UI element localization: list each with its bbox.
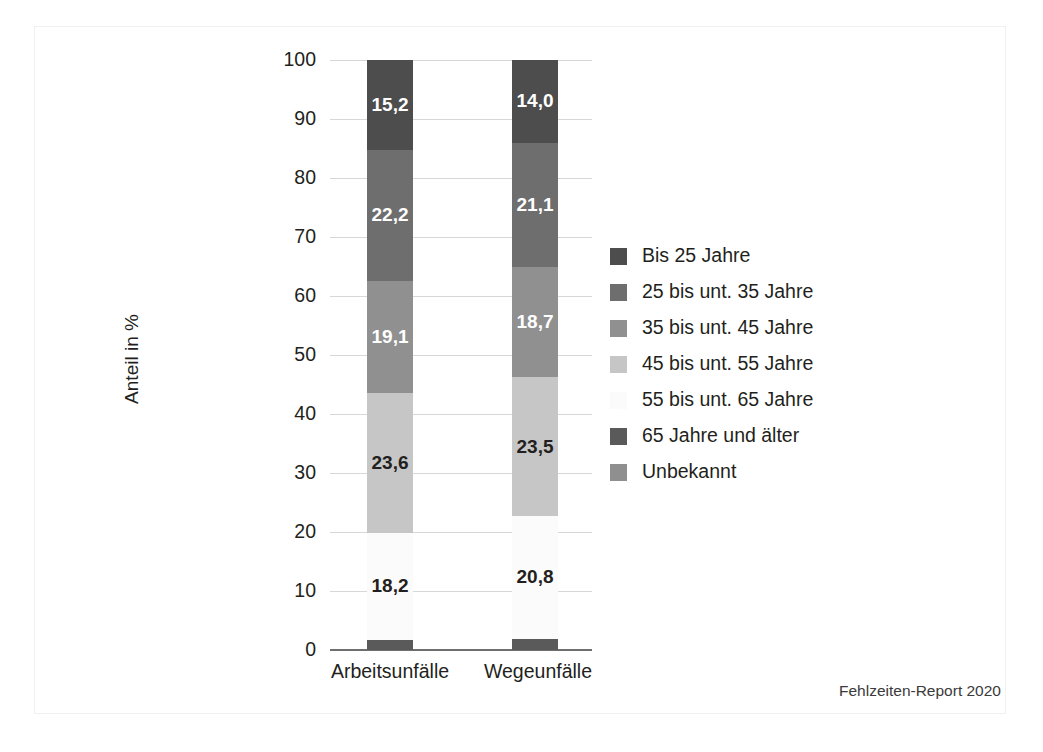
bar-segment-value: 23,6 (367, 453, 413, 472)
legend-item[interactable]: 55 bis unt. 65 Jahre (610, 382, 813, 418)
y-tick-label: 100 (274, 50, 316, 70)
bar-segment-value: 18,2 (367, 576, 413, 595)
legend-swatch-icon (610, 284, 627, 301)
bar-segment[interactable] (367, 640, 413, 650)
legend-item-label: Bis 25 Jahre (642, 246, 750, 266)
legend-item-label: 35 bis unt. 45 Jahre (642, 318, 813, 338)
source-note: Fehlzeiten-Report 2020 (839, 682, 1001, 700)
legend-item[interactable]: 65 Jahre und älter (610, 418, 813, 454)
y-tick-label: 80 (274, 168, 316, 188)
chart-figure: 010203040506070809010015,222,219,123,618… (0, 0, 1043, 752)
legend-swatch-icon (610, 248, 627, 265)
legend-item[interactable]: Unbekannt (610, 454, 813, 490)
y-tick-label: 50 (274, 345, 316, 365)
bar-segment-value: 19,1 (367, 327, 413, 346)
legend-item[interactable]: Bis 25 Jahre (610, 238, 813, 274)
bar-segment-value: 15,2 (367, 95, 413, 114)
legend: Bis 25 Jahre25 bis unt. 35 Jahre35 bis u… (610, 238, 813, 490)
legend-item-label: 25 bis unt. 35 Jahre (642, 282, 813, 302)
y-tick-label: 60 (274, 286, 316, 306)
legend-item-label: 65 Jahre und älter (642, 426, 799, 446)
y-axis-title: Anteil in % (121, 209, 143, 509)
legend-item-label: 45 bis unt. 55 Jahre (642, 354, 813, 374)
legend-item[interactable]: 25 bis unt. 35 Jahre (610, 274, 813, 310)
bar-segment-value: 18,7 (512, 312, 558, 331)
bar-segment[interactable] (512, 639, 558, 650)
bar-arbeitsunfaelle[interactable]: 15,222,219,123,618,2 (367, 60, 413, 650)
y-tick-label: 90 (274, 109, 316, 129)
y-tick-label: 0 (274, 640, 316, 660)
bar-segment-value: 23,5 (512, 437, 558, 456)
bar-segment-value: 20,8 (512, 567, 558, 586)
y-tick-label: 30 (274, 463, 316, 483)
y-tick-label: 70 (274, 227, 316, 247)
x-tick-wegeunfaelle: Wegeunfälle (448, 660, 628, 683)
bar-segment-value: 14,0 (512, 91, 558, 110)
legend-swatch-icon (610, 392, 627, 409)
plot-area: 010203040506070809010015,222,219,123,618… (0, 0, 1043, 752)
y-tick-label: 20 (274, 522, 316, 542)
legend-item[interactable]: 45 bis unt. 55 Jahre (610, 346, 813, 382)
bar-segment-value: 22,2 (367, 205, 413, 224)
legend-swatch-icon (610, 356, 627, 373)
legend-swatch-icon (610, 464, 627, 481)
legend-item-label: Unbekannt (642, 462, 736, 482)
bar-segment-value: 21,1 (512, 195, 558, 214)
legend-swatch-icon (610, 428, 627, 445)
legend-swatch-icon (610, 320, 627, 337)
bar-wegeunfaelle[interactable]: 14,021,118,723,520,8 (512, 60, 558, 650)
legend-item[interactable]: 35 bis unt. 45 Jahre (610, 310, 813, 346)
y-tick-label: 40 (274, 404, 316, 424)
y-tick-label: 10 (274, 581, 316, 601)
legend-item-label: 55 bis unt. 65 Jahre (642, 390, 813, 410)
